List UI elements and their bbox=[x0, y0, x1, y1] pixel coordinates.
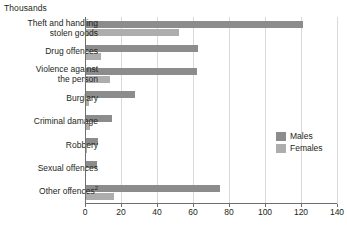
gridline bbox=[229, 17, 230, 204]
category-label: Other offences2 bbox=[0, 186, 98, 196]
category-label: Violence againstthe person bbox=[0, 64, 98, 84]
category-label: Criminal damage bbox=[0, 116, 98, 126]
plot-area bbox=[85, 17, 337, 204]
x-axis-tick-label: 60 bbox=[188, 207, 197, 217]
legend-label-females: Females bbox=[290, 143, 323, 154]
x-axis-tick-label: 100 bbox=[258, 207, 272, 217]
category-label: Burglary bbox=[0, 93, 98, 103]
legend-item-females: Females bbox=[276, 143, 342, 154]
bar-chart: Thousands Theft and handlingstolen goods… bbox=[0, 0, 347, 226]
bar-males bbox=[85, 185, 220, 192]
gridline bbox=[337, 17, 338, 204]
legend-swatch-females bbox=[276, 144, 286, 153]
x-axis-tick-label: 40 bbox=[152, 207, 161, 217]
x-axis-tick-label: 20 bbox=[116, 207, 125, 217]
legend-swatch-males bbox=[276, 132, 286, 141]
y-axis-line bbox=[85, 17, 86, 204]
chart-title: Thousands bbox=[4, 3, 47, 13]
x-axis-tick-label: 80 bbox=[224, 207, 233, 217]
bar-males bbox=[85, 68, 197, 75]
category-label: Theft and handlingstolen goods bbox=[0, 18, 98, 38]
gridline bbox=[265, 17, 266, 204]
category-label: Robbery bbox=[0, 140, 98, 150]
category-label: Drug offences bbox=[0, 46, 98, 56]
gridline bbox=[301, 17, 302, 204]
bar-males bbox=[85, 21, 303, 28]
x-axis-line bbox=[85, 203, 337, 204]
x-axis-tick-label: 140 bbox=[330, 207, 344, 217]
legend-item-males: Males bbox=[276, 131, 342, 142]
x-axis-tick-label: 120 bbox=[294, 207, 308, 217]
chart-legend: Males Females bbox=[276, 131, 342, 155]
category-label: Sexual offences bbox=[0, 163, 98, 173]
legend-label-males: Males bbox=[290, 131, 313, 142]
bar-females bbox=[85, 29, 179, 36]
x-axis-tick-label: 0 bbox=[83, 207, 88, 217]
bar-males bbox=[85, 45, 198, 52]
